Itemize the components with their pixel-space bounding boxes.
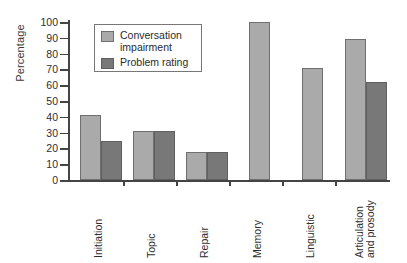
- y-axis-tick: [60, 101, 68, 103]
- x-axis-label: Initiation: [93, 219, 104, 258]
- bar-problem-rating: [154, 131, 175, 180]
- x-axis-label-container: Repair: [197, 186, 211, 260]
- legend-label-problem-rating: Problem rating: [120, 57, 188, 69]
- x-axis-label: Articulationand prosody: [354, 200, 376, 258]
- y-axis-tick: [60, 180, 68, 182]
- x-axis-label-container: Articulationand prosody: [356, 186, 370, 260]
- y-axis-tick-label: 80: [32, 49, 58, 59]
- y-axis-tick: [60, 22, 68, 24]
- y-axis-tick-label: 100: [32, 17, 58, 27]
- x-axis-tick: [229, 180, 231, 186]
- y-axis-tick: [60, 148, 68, 150]
- bar-conversation-impairment: [133, 131, 154, 180]
- y-axis-tick-label-container: 60: [28, 80, 58, 90]
- legend-label-conversation-impairment: Conversation impairment: [120, 30, 182, 53]
- y-axis-tick-label-container: 40: [28, 112, 58, 122]
- x-axis-label: Linguistic: [305, 214, 316, 258]
- y-axis-tick: [60, 69, 68, 71]
- bar-conversation-impairment: [80, 115, 101, 180]
- x-axis-label-line1: Articulation: [353, 206, 365, 258]
- y-axis-tick-label: 70: [32, 64, 58, 74]
- y-axis-tick: [60, 85, 68, 87]
- bar-problem-rating: [101, 141, 122, 181]
- y-axis-tick-label: 50: [32, 96, 58, 106]
- x-axis-label: Memory: [252, 220, 263, 258]
- bar-conversation-impairment: [302, 68, 323, 180]
- bar-conversation-impairment: [249, 22, 270, 180]
- y-axis-title-container: Percentage: [10, 50, 26, 170]
- y-axis-tick-label: 30: [32, 128, 58, 138]
- y-axis-tick-label-container: 90: [28, 33, 58, 43]
- bar-chart: Percentage 0102030405060708090100 Initia…: [0, 0, 407, 263]
- y-axis-tick-label: 10: [32, 159, 58, 169]
- x-axis-label: Topic: [146, 233, 157, 258]
- x-axis-label-line2: and prosody: [365, 200, 376, 258]
- y-axis-tick-label: 60: [32, 80, 58, 90]
- x-axis-label-container: Linguistic: [303, 186, 317, 260]
- y-axis-tick-label-container: 10: [28, 159, 58, 169]
- legend-swatch-icon-light: [101, 31, 114, 42]
- x-axis-label-container: Memory: [250, 186, 264, 260]
- y-axis-tick: [60, 133, 68, 135]
- x-axis-tick: [335, 180, 337, 186]
- legend-label-line1: Conversation: [120, 29, 182, 41]
- legend-item-conversation-impairment: Conversation impairment: [101, 30, 196, 53]
- y-axis-tick-label: 20: [32, 143, 58, 153]
- y-axis-tick-label: 0: [32, 175, 58, 185]
- x-axis-tick: [123, 180, 125, 186]
- x-axis-tick: [282, 180, 284, 186]
- x-axis-label: Repair: [199, 227, 210, 258]
- x-axis-label-container: Topic: [144, 186, 158, 260]
- y-axis-title: Percentage: [14, 0, 28, 108]
- y-axis-tick-label-container: 50: [28, 96, 58, 106]
- bar-problem-rating: [366, 82, 387, 180]
- y-axis-tick: [60, 164, 68, 166]
- x-axis-label-container: Initiation: [91, 186, 105, 260]
- y-axis-tick-label-container: 80: [28, 49, 58, 59]
- y-axis-tick: [60, 117, 68, 119]
- legend-item-problem-rating: Problem rating: [101, 57, 196, 69]
- bar-conversation-impairment: [345, 39, 366, 180]
- bar-problem-rating: [207, 152, 228, 180]
- y-axis-tick-label-container: 20: [28, 143, 58, 153]
- y-axis-tick-label-container: 30: [28, 128, 58, 138]
- y-axis-tick-label-container: 100: [28, 17, 58, 27]
- y-axis-tick-label-container: 0: [28, 175, 58, 185]
- legend-label-line2: impairment: [120, 41, 172, 53]
- chart-legend: Conversation impairment Problem rating: [94, 24, 202, 72]
- y-axis-tick-label: 40: [32, 112, 58, 122]
- y-axis-tick-label-container: 70: [28, 64, 58, 74]
- y-axis-tick: [60, 54, 68, 56]
- x-axis-tick: [176, 180, 178, 186]
- y-axis-tick: [60, 38, 68, 40]
- bar-conversation-impairment: [186, 152, 207, 180]
- y-axis-tick-label: 90: [32, 33, 58, 43]
- legend-swatch-icon-dark: [101, 58, 114, 69]
